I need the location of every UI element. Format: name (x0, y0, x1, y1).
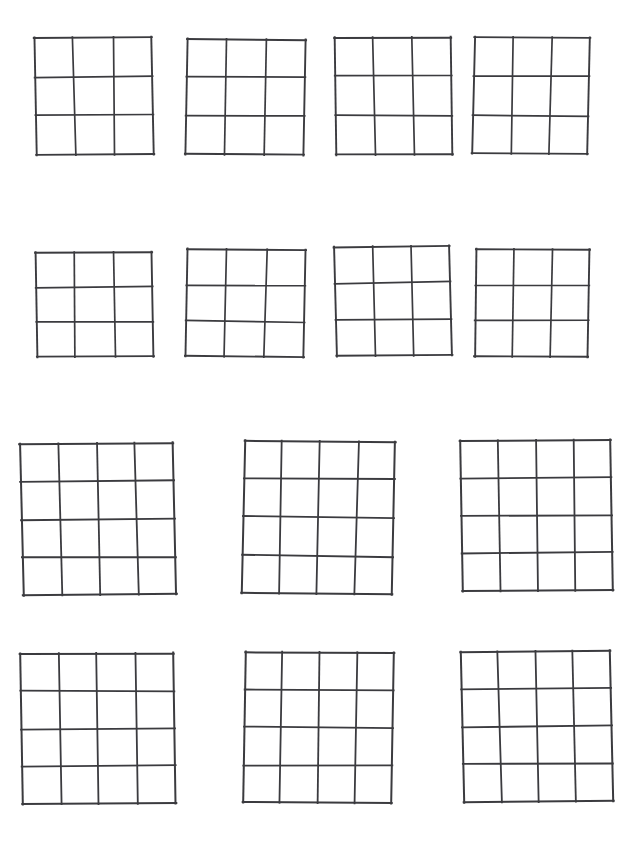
grid-cell[interactable] (113, 37, 151, 75)
grid-cell[interactable] (476, 286, 513, 320)
grid-cell[interactable] (76, 116, 114, 154)
grid-cell[interactable] (138, 557, 176, 594)
grid-cell[interactable] (320, 653, 356, 689)
grid-figure[interactable] (34, 37, 154, 156)
grid-figure[interactable] (334, 37, 453, 156)
grid-cell[interactable] (357, 480, 394, 517)
grid-cell[interactable] (461, 479, 498, 515)
grid-cell[interactable] (114, 77, 152, 115)
grid-cell[interactable] (37, 323, 75, 356)
grid-cell[interactable] (461, 652, 498, 688)
grid-cell[interactable] (23, 558, 61, 595)
grid-cell[interactable] (246, 652, 282, 688)
grid-cell[interactable] (37, 288, 75, 321)
grid-cell[interactable] (373, 247, 411, 282)
grid-cell[interactable] (334, 247, 372, 282)
grid-cell[interactable] (187, 39, 226, 76)
grid-cell[interactable] (551, 77, 589, 115)
grid-cell[interactable] (475, 322, 512, 356)
grid-cell[interactable] (283, 653, 319, 689)
grid-cell[interactable] (282, 728, 318, 764)
grid-figure[interactable] (19, 442, 177, 595)
grid-cell[interactable] (499, 652, 536, 688)
grid-cell[interactable] (336, 320, 374, 355)
grid-cell[interactable] (464, 765, 501, 801)
grid-cell[interactable] (98, 654, 135, 690)
grid-figure[interactable] (460, 439, 614, 591)
grid-cell[interactable] (461, 441, 498, 477)
grid-cell[interactable] (476, 250, 513, 284)
grid-cell[interactable] (463, 728, 500, 764)
grid-cell[interactable] (574, 440, 611, 476)
grid-cell[interactable] (357, 653, 393, 689)
grid-cell[interactable] (244, 480, 281, 517)
grid-cell[interactable] (21, 692, 58, 728)
grid-cell[interactable] (36, 253, 74, 286)
grid-cell[interactable] (462, 690, 499, 726)
grid-cell[interactable] (61, 558, 99, 595)
grid-cell[interactable] (536, 652, 573, 688)
grid-cell[interactable] (500, 727, 537, 763)
grid-cell[interactable] (500, 516, 537, 552)
grid-cell[interactable] (282, 690, 318, 726)
grid-cell[interactable] (75, 77, 113, 115)
grid-cell[interactable] (319, 480, 356, 517)
grid-cell[interactable] (356, 729, 392, 765)
grid-cell[interactable] (137, 729, 174, 765)
grid-cell[interactable] (97, 444, 135, 481)
grid-cell[interactable] (281, 518, 318, 555)
grid-cell[interactable] (22, 520, 60, 557)
grid-cell[interactable] (355, 557, 392, 594)
grid-cell[interactable] (552, 286, 589, 320)
grid-figure[interactable] (35, 252, 154, 358)
grid-cell[interactable] (281, 766, 317, 802)
grid-cell[interactable] (513, 322, 550, 356)
grid-cell[interactable] (226, 78, 265, 115)
grid-cell[interactable] (136, 654, 173, 690)
grid-cell[interactable] (414, 116, 452, 154)
grid-cell[interactable] (538, 554, 575, 590)
grid-cell[interactable] (225, 117, 264, 154)
grid-cell[interactable] (100, 767, 137, 803)
grid-cell[interactable] (267, 40, 306, 77)
grid-cell[interactable] (98, 691, 135, 727)
grid-cell[interactable] (242, 556, 279, 593)
grid-cell[interactable] (318, 766, 354, 802)
grid-cell[interactable] (514, 250, 551, 284)
grid-figure[interactable] (460, 650, 613, 802)
grid-cell[interactable] (244, 728, 280, 764)
grid-cell[interactable] (575, 689, 612, 725)
grid-figure[interactable] (472, 37, 591, 155)
grid-cell[interactable] (501, 765, 538, 801)
grid-cell[interactable] (413, 283, 451, 318)
grid-figure[interactable] (20, 653, 177, 805)
grid-cell[interactable] (499, 479, 536, 515)
grid-cell[interactable] (538, 727, 575, 763)
grid-cell[interactable] (413, 38, 451, 76)
grid-cell[interactable] (136, 481, 174, 518)
grid-cell[interactable] (227, 40, 266, 77)
grid-cell[interactable] (138, 767, 175, 803)
grid-cell[interactable] (21, 654, 58, 690)
grid-figure[interactable] (185, 38, 306, 155)
grid-cell[interactable] (186, 321, 225, 356)
grid-cell[interactable] (136, 443, 174, 480)
grid-cell[interactable] (99, 520, 137, 557)
grid-cell[interactable] (35, 38, 73, 76)
grid-cell[interactable] (36, 117, 74, 155)
grid-cell[interactable] (267, 250, 306, 285)
grid-cell[interactable] (225, 322, 264, 357)
grid-cell[interactable] (552, 38, 590, 76)
grid-cell[interactable] (76, 288, 114, 321)
grid-cell[interactable] (61, 767, 98, 803)
grid-cell[interactable] (137, 691, 174, 727)
grid-cell[interactable] (266, 286, 305, 321)
grid-cell[interactable] (282, 480, 319, 517)
grid-cell[interactable] (115, 323, 153, 356)
grid-cell[interactable] (500, 554, 537, 590)
grid-cell[interactable] (244, 766, 280, 802)
grid-cell[interactable] (375, 77, 413, 115)
grid-cell[interactable] (320, 442, 357, 479)
grid-cell[interactable] (266, 79, 305, 116)
grid-cell[interactable] (186, 78, 225, 115)
